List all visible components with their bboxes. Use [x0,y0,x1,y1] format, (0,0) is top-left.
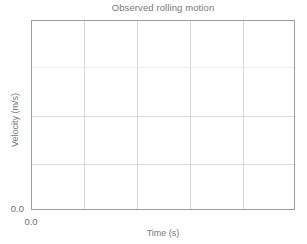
plot-area [31,20,295,210]
x-axis-tick-label: 0.0 [24,216,37,227]
chart-title: Observed rolling motion [31,2,295,13]
x-axis-label: Time (s) [31,228,295,238]
y-axis-label: Velocity (m/s) [10,60,20,180]
chart-figure: Observed rolling motion 0.0 0.0 Time (s)… [0,0,307,244]
data-series-layer [32,21,294,209]
y-axis-tick-label: 0.0 [11,203,24,214]
